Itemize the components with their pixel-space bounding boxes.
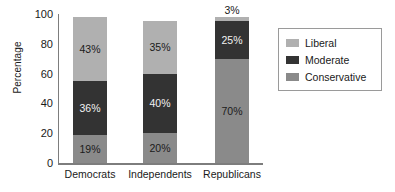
y-axis-tick-label: 40 — [27, 97, 53, 109]
bar-segment-label: 43% — [79, 44, 100, 55]
bar-democrats: 43%36%19% — [73, 17, 107, 163]
legend-swatch-icon — [286, 73, 299, 81]
x-axis-tick-label: Democrats — [65, 168, 116, 180]
legend-item-conservative: Conservative — [286, 69, 374, 84]
chart-legend: LiberalModerateConservative — [278, 28, 382, 91]
legend-item-label: Liberal — [305, 37, 337, 49]
bar-independents: 35%40%20% — [143, 21, 177, 163]
x-axis-tick-label: Republicans — [203, 168, 261, 180]
bar-segment-moderate: 40% — [143, 74, 177, 134]
bar-segment-label: 36% — [79, 103, 100, 114]
stacked-bar-chart: Percentage 100806040200 43%36%19%35%40%2… — [0, 0, 395, 192]
bar-segment-moderate: 36% — [73, 81, 107, 135]
y-axis-tick-label: 100 — [27, 8, 53, 20]
bar-segment-conservative: 19% — [73, 135, 107, 163]
legend-swatch-icon — [286, 56, 299, 64]
y-axis-tick-label: 20 — [27, 127, 53, 139]
y-axis-tick-label: 0 — [27, 157, 53, 169]
bar-segment-conservative: 70% — [215, 59, 249, 163]
bar-segment-conservative: 20% — [143, 133, 177, 163]
bar-segment-label: 25% — [221, 35, 242, 46]
legend-swatch-icon — [286, 39, 299, 47]
legend-item-moderate: Moderate — [286, 52, 374, 67]
bar-segment-liberal: 43% — [73, 17, 107, 81]
x-axis-tick-label: Independents — [128, 168, 192, 180]
legend-item-label: Conservative — [305, 71, 366, 83]
bar-segment-label: 19% — [79, 144, 100, 155]
bar-republicans: 3%25%70% — [215, 17, 249, 163]
bar-segment-liberal: 35% — [143, 21, 177, 73]
bar-segment-label: 35% — [149, 42, 170, 53]
bar-segment-label: 40% — [149, 98, 170, 109]
x-axis-line — [58, 163, 263, 165]
bar-segment-label: 70% — [221, 106, 242, 117]
bar-segment-label: 3% — [224, 5, 239, 16]
bar-segment-label: 20% — [149, 143, 170, 154]
legend-item-liberal: Liberal — [286, 35, 374, 50]
y-axis-tick-label: 60 — [27, 68, 53, 80]
legend-item-label: Moderate — [305, 54, 349, 66]
y-axis-tick-labels: 100806040200 — [20, 0, 53, 192]
y-axis-tick-label: 80 — [27, 38, 53, 50]
bar-segment-moderate: 25% — [215, 21, 249, 58]
plot-area: 43%36%19%35%40%20%3%25%70% — [58, 14, 263, 163]
